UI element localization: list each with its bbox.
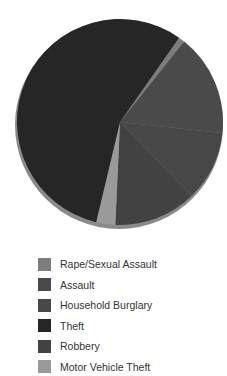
legend-swatch xyxy=(38,299,51,312)
legend-swatch xyxy=(38,278,51,291)
legend-swatch xyxy=(38,340,51,353)
legend-label: Rape/Sexual Assault xyxy=(60,258,157,270)
legend-label: Robbery xyxy=(60,340,100,352)
pie-chart xyxy=(0,0,227,240)
legend-item-theft: Theft xyxy=(38,316,157,337)
legend-label: Theft xyxy=(60,320,84,332)
legend-swatch xyxy=(38,319,51,332)
legend-label: Household Burglary xyxy=(60,299,152,311)
legend-label: Motor Vehicle Theft xyxy=(60,361,150,373)
legend-item-motor-vehicle-theft: Motor Vehicle Theft xyxy=(38,357,157,376)
pie-slices xyxy=(17,19,223,225)
legend-item-rape-sexual-assault: Rape/Sexual Assault xyxy=(38,254,157,275)
chart-legend: Rape/Sexual Assault Assault Household Bu… xyxy=(38,254,157,376)
legend-swatch xyxy=(38,360,51,373)
legend-item-assault: Assault xyxy=(38,275,157,296)
legend-swatch xyxy=(38,258,51,271)
legend-label: Assault xyxy=(60,279,94,291)
legend-item-household-burglary: Household Burglary xyxy=(38,295,157,316)
legend-item-robbery: Robbery xyxy=(38,336,157,357)
